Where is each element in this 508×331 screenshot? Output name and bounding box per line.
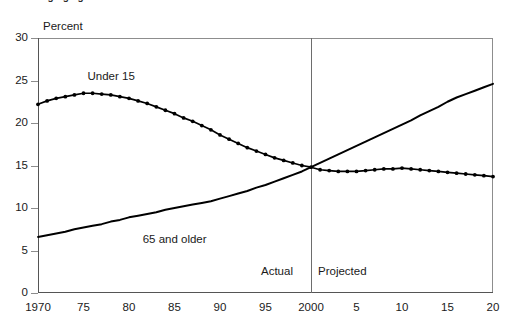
series-marker (427, 169, 431, 173)
series-marker (264, 153, 268, 157)
series-marker (191, 119, 195, 123)
y-tick-label: 15 (2, 160, 28, 171)
x-tick-label: 80 (104, 301, 154, 313)
series-marker (200, 124, 204, 128)
y-tick-label: 30 (2, 32, 28, 43)
series-marker (255, 149, 259, 153)
x-tick-label: 10 (377, 301, 427, 313)
x-tick-label: 85 (150, 301, 200, 313)
series-marker (218, 133, 222, 137)
series-marker (473, 173, 477, 177)
series-marker (54, 96, 58, 100)
series-marker (182, 116, 186, 120)
series-line-65-and-older (38, 84, 493, 237)
x-tick-label: 15 (423, 301, 473, 313)
period-label-projected: Projected (318, 265, 367, 277)
series-marker (154, 105, 158, 109)
series-label-65-and-older: 65 and older (143, 233, 207, 245)
y-tick-label: 10 (2, 202, 28, 213)
y-tick-label: 25 (2, 75, 28, 86)
series-marker (373, 168, 377, 172)
x-tick-label: 20 (468, 301, 508, 313)
series-marker (100, 92, 104, 96)
series-marker (409, 167, 413, 171)
series-marker (145, 102, 149, 106)
x-tick-label: 1970 (13, 301, 63, 313)
series-marker (291, 161, 295, 165)
series-marker (355, 170, 359, 174)
series-marker (82, 91, 86, 95)
x-tick-label: 75 (59, 301, 109, 313)
y-tick-label: 0 (2, 287, 28, 298)
series-marker (91, 91, 95, 95)
series-marker (164, 108, 168, 112)
series-marker (418, 168, 422, 172)
series-marker (437, 170, 441, 174)
series-marker (446, 170, 450, 174)
x-tick-label: 2000 (286, 301, 336, 313)
series-marker (273, 156, 277, 160)
y-tick (31, 123, 38, 124)
y-tick (31, 81, 38, 82)
series-marker (118, 95, 122, 99)
series-marker (482, 174, 486, 178)
series-marker (109, 93, 113, 97)
series-marker (245, 146, 249, 150)
series-marker (382, 167, 386, 171)
y-tick (31, 166, 38, 167)
x-tick-label: 90 (195, 301, 245, 313)
series-label-under-15: Under 15 (88, 70, 135, 82)
series-marker (282, 159, 286, 163)
series-marker (464, 172, 468, 176)
x-tick-label: 95 (241, 301, 291, 313)
series-marker (136, 99, 140, 103)
y-axis-title: Percent (43, 20, 83, 32)
series-marker (45, 99, 49, 103)
series-marker (209, 128, 213, 132)
series-marker (318, 168, 322, 172)
y-tick (31, 251, 38, 252)
period-label-actual: Actual (261, 265, 293, 277)
series-marker (36, 102, 40, 106)
series-marker (336, 170, 340, 174)
y-tick (31, 293, 38, 294)
series-line-under-15 (38, 93, 493, 176)
series-marker (491, 175, 495, 179)
figure-title: Changing age structure (22, 0, 136, 2)
series-marker (173, 112, 177, 116)
series-marker (346, 170, 350, 174)
y-tick (31, 38, 38, 39)
series-marker (300, 164, 304, 168)
series-marker (236, 142, 240, 146)
series-marker (63, 95, 67, 99)
y-tick (31, 208, 38, 209)
chart-figure: Changing age structure Percent 051015202… (0, 0, 508, 331)
series-marker (391, 167, 395, 171)
series-marker (400, 166, 404, 170)
series-marker (327, 169, 331, 173)
series-marker (227, 137, 231, 141)
y-tick-label: 20 (2, 117, 28, 128)
x-tick-label: 5 (332, 301, 382, 313)
series-marker (364, 169, 368, 173)
series-marker (73, 93, 77, 97)
series-marker (455, 171, 459, 175)
series-marker (127, 96, 131, 100)
y-tick-label: 5 (2, 245, 28, 256)
